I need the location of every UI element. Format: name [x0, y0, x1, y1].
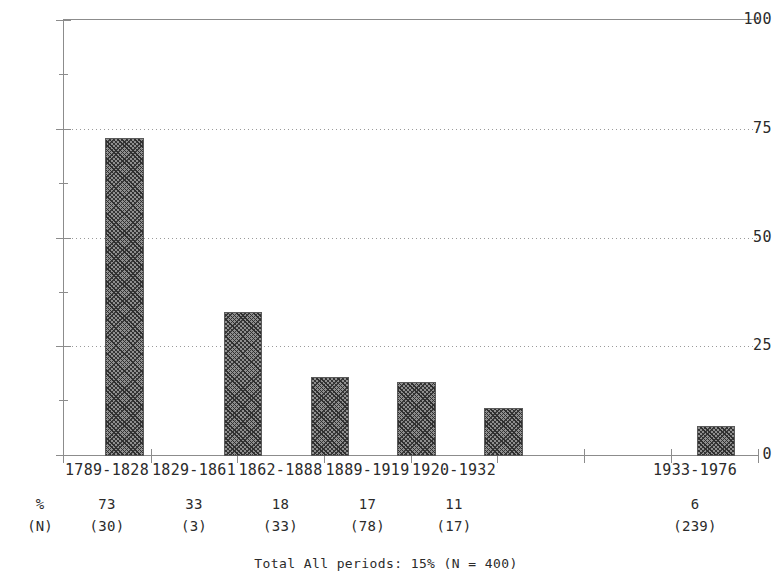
percent-value-1920-1932: 11	[411, 496, 497, 513]
percent-value-1889-1919: 17	[324, 496, 411, 513]
plot-area	[63, 20, 758, 456]
x-axis-label-1862-1888: 1862-1888	[237, 461, 324, 479]
x-axis-label-1789-1828: 1789-1828	[63, 461, 151, 479]
bar-chart-figure: 100 75 50 25 0 1789-1828 1829-1861 1862-…	[0, 0, 772, 579]
bar-1862-1888[interactable]	[311, 377, 349, 456]
bar-1829-1861[interactable]	[224, 312, 262, 456]
x-axis-label-1933-1976: 1933-1976	[640, 461, 750, 479]
bar-1920-1932[interactable]	[484, 408, 523, 456]
row-header-n: (N)	[18, 518, 62, 535]
bar-1889-1919[interactable]	[397, 382, 436, 456]
total-note: Total All periods: 15% (N = 400)	[0, 556, 772, 572]
n-value-1789-1828: (30)	[63, 518, 151, 535]
percent-value-1789-1828: 73	[63, 496, 151, 513]
x-tick-8	[758, 449, 759, 463]
n-value-1920-1932: (17)	[411, 518, 497, 535]
x-axis-label-1889-1919: 1889-1919	[324, 461, 411, 479]
n-value-1829-1861: (3)	[151, 518, 237, 535]
bar-1789-1828[interactable]	[105, 138, 144, 456]
percent-value-1933-1976: 6	[640, 496, 750, 513]
percent-value-1862-1888: 18	[237, 496, 324, 513]
n-value-1862-1888: (33)	[237, 518, 324, 535]
x-axis-label-1829-1861: 1829-1861	[151, 461, 237, 479]
percent-value-1829-1861: 33	[151, 496, 237, 513]
n-value-1889-1919: (78)	[324, 518, 411, 535]
row-header-percent: %	[18, 496, 62, 513]
bar-1933-1976[interactable]	[697, 426, 735, 456]
n-value-1933-1976: (239)	[640, 518, 750, 535]
x-axis-label-1920-1932: 1920-1932	[411, 461, 497, 479]
